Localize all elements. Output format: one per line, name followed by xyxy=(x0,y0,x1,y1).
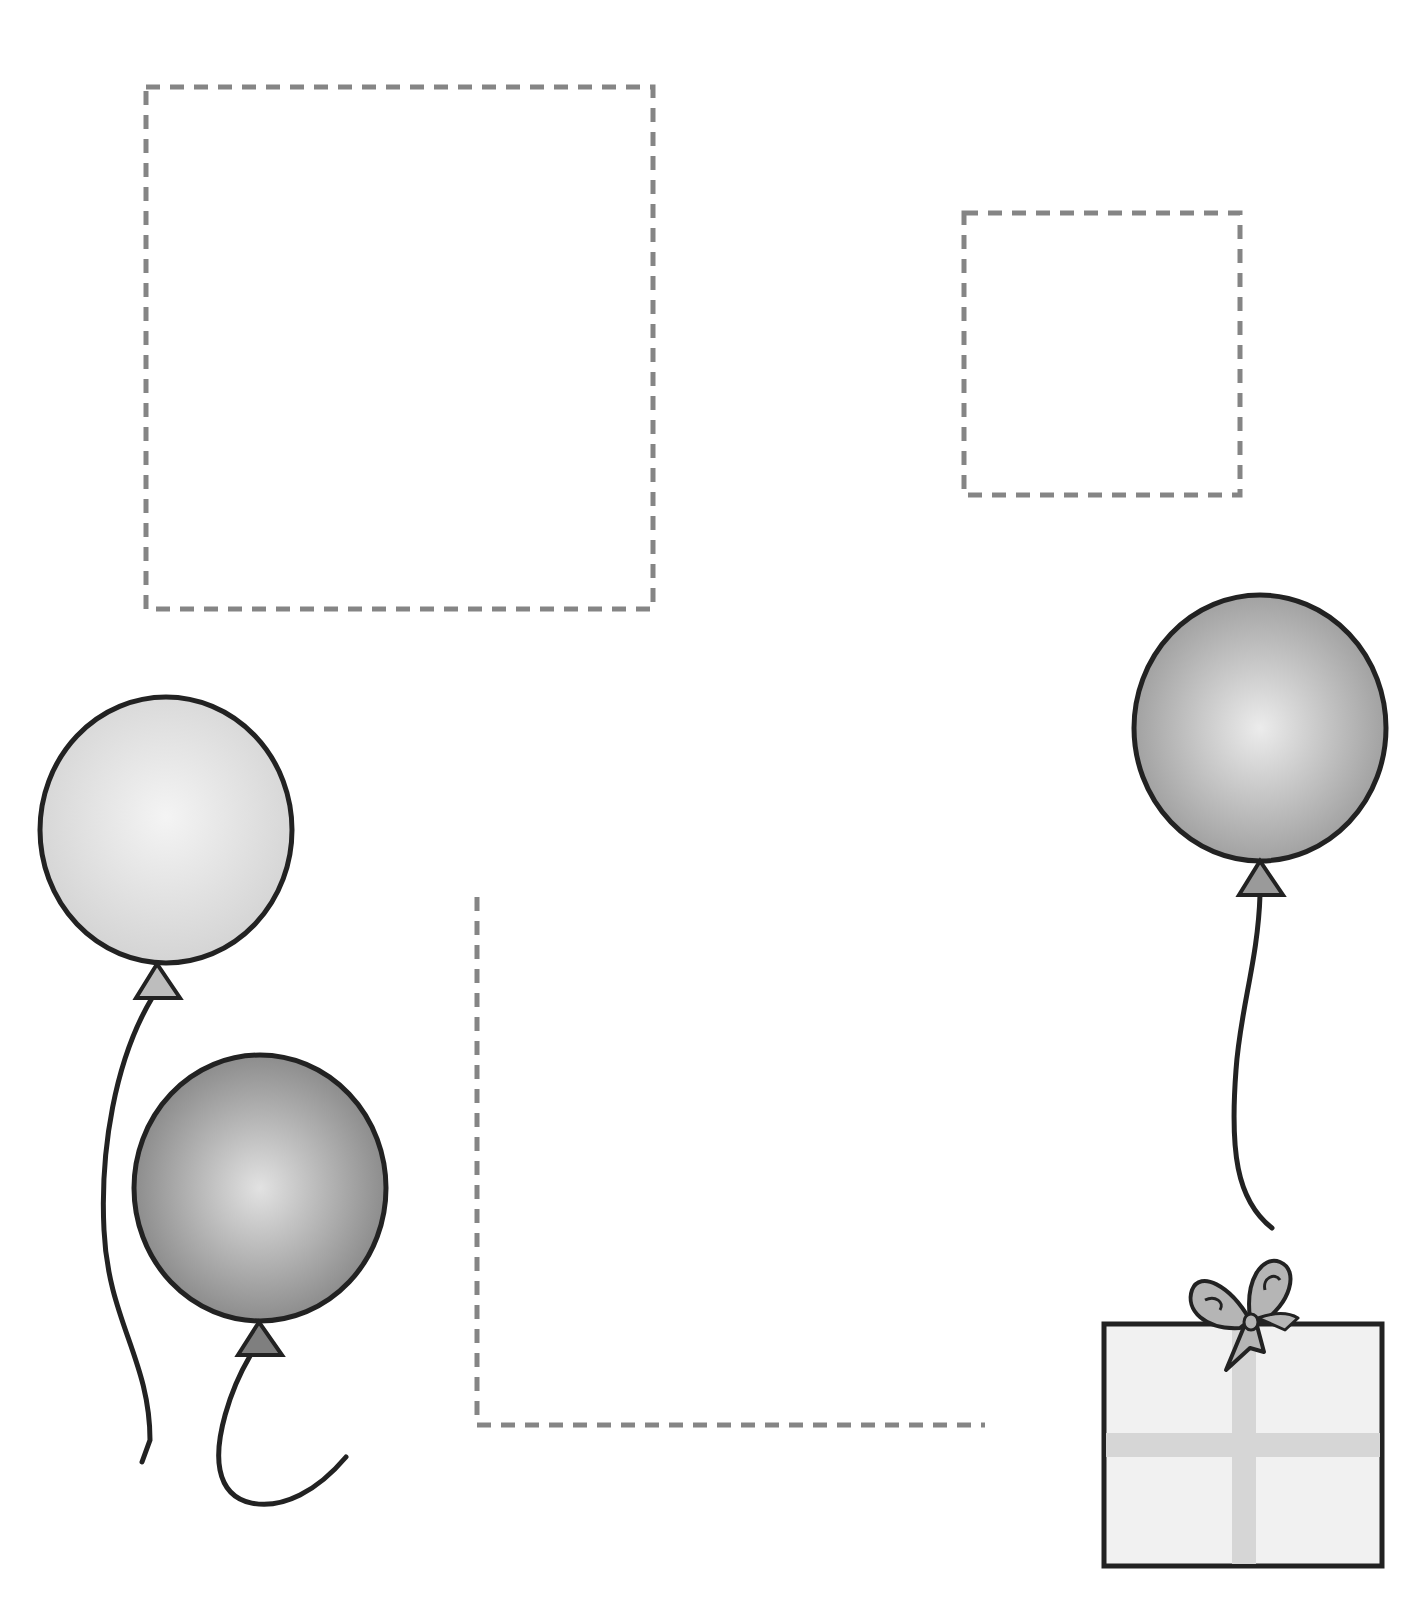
balloon-medium xyxy=(1134,595,1386,895)
small-dashed-square xyxy=(964,213,1240,495)
balloon-medium-string xyxy=(1234,895,1272,1228)
gift-box xyxy=(1104,1261,1382,1566)
balloon-knot-icon xyxy=(136,964,180,998)
balloon-light xyxy=(40,697,292,998)
balloon-knot-icon xyxy=(238,1322,282,1355)
balloon-dark-string xyxy=(219,1356,346,1504)
balloon-dark xyxy=(134,1055,386,1355)
large-dashed-rectangle xyxy=(146,87,653,609)
gift-ribbon-horizontal xyxy=(1106,1433,1380,1457)
worksheet-drawing xyxy=(0,0,1424,1616)
balloon-knot-icon xyxy=(1239,861,1283,895)
l-shaped-dashed-corner xyxy=(477,897,985,1425)
worksheet-canvas: Balloon and gift tracing/cut-out workshe… xyxy=(0,0,1424,1616)
